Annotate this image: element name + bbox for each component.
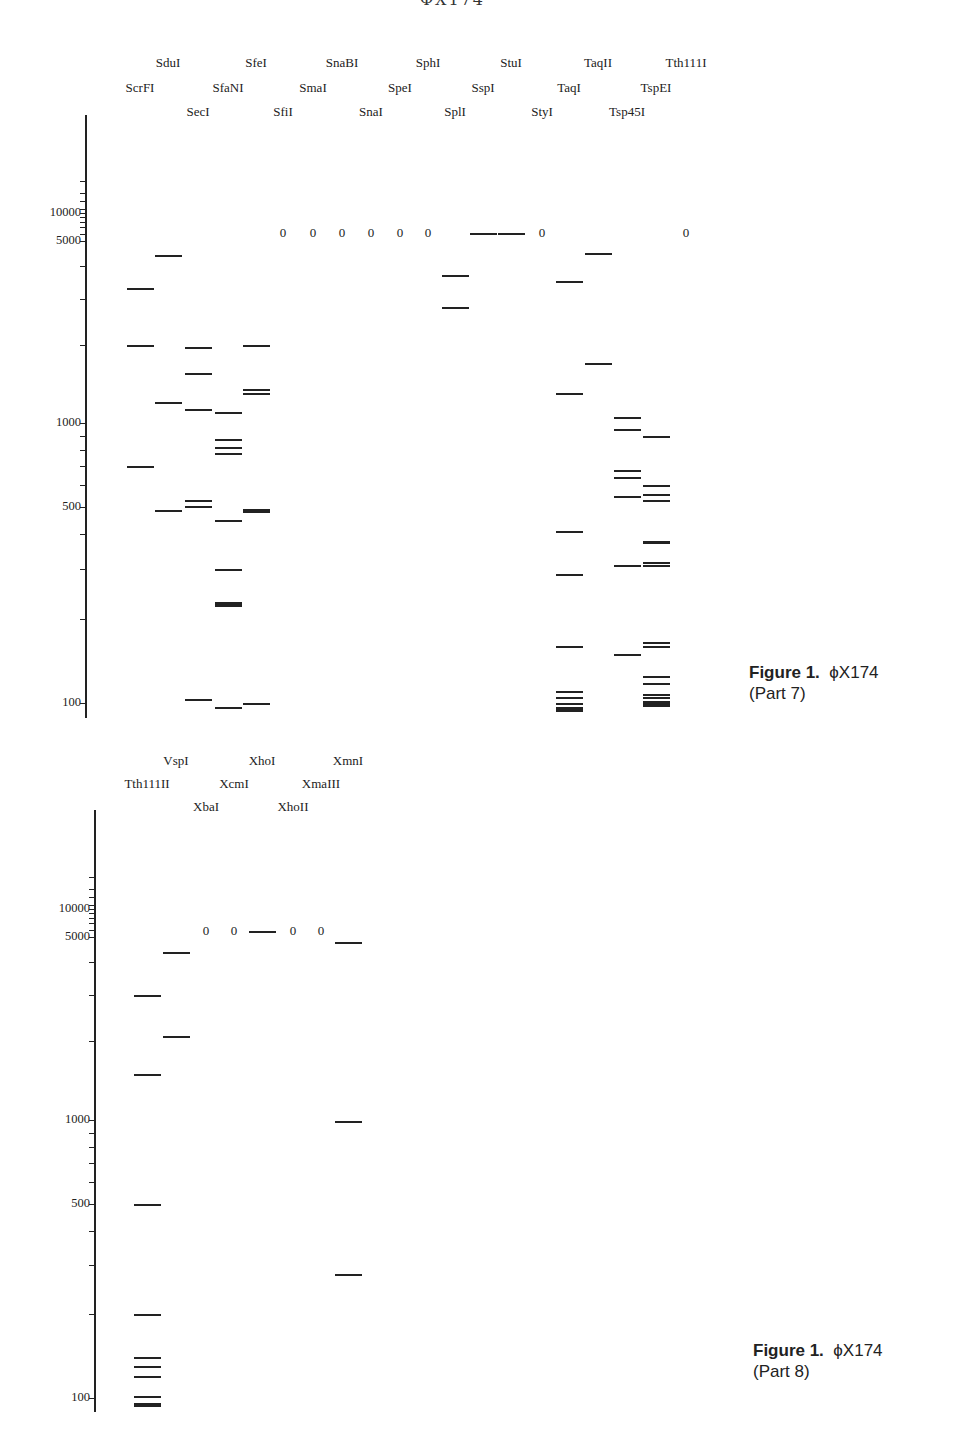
y-tick <box>89 995 94 996</box>
enzyme-label: XhoI <box>249 753 276 769</box>
y-tick <box>89 1147 94 1148</box>
zero-fragments-marker: 0 <box>290 923 297 939</box>
y-tick <box>89 1231 94 1232</box>
y-tick <box>89 889 94 890</box>
caption-organism: ϕX174 <box>829 663 878 682</box>
y-tick <box>89 1265 94 1266</box>
fragment-band <box>134 1396 161 1398</box>
figure-caption-part-8: Figure 1. ϕX174 (Part 8) <box>753 1340 883 1382</box>
y-tick <box>89 877 94 878</box>
y-tick <box>89 897 94 898</box>
y-tick <box>89 1133 94 1134</box>
enzyme-label: XmaIII <box>302 776 340 792</box>
caption-figure-label: Figure 1. <box>753 1341 824 1360</box>
zero-fragments-marker: 0 <box>231 923 238 939</box>
y-tick <box>89 1163 94 1164</box>
fragment-band <box>134 1404 161 1407</box>
y-tick-label: 1000 <box>30 1112 90 1127</box>
y-tick <box>89 923 94 924</box>
fragment-band <box>134 1376 161 1378</box>
digest-panel-part-8: 1005001000500010000Tth111IIVspIXbaI0XcmI… <box>0 0 969 1435</box>
enzyme-label: VspI <box>163 753 188 769</box>
y-tick <box>89 962 94 963</box>
zero-fragments-marker: 0 <box>203 923 210 939</box>
y-tick-label: 500 <box>30 1196 90 1211</box>
enzyme-label: Tth111II <box>124 776 169 792</box>
enzyme-label: XhoII <box>277 799 308 815</box>
fragment-band <box>163 952 190 954</box>
fragment-band <box>134 1366 161 1368</box>
enzyme-label: XbaI <box>193 799 219 815</box>
enzyme-label: XcmI <box>219 776 249 792</box>
y-tick <box>89 918 94 919</box>
y-tick-label: 5000 <box>30 929 90 944</box>
fragment-band <box>134 1074 161 1076</box>
fragment-band <box>134 1314 161 1316</box>
fragment-band <box>163 1036 190 1038</box>
fragment-band <box>335 1121 362 1123</box>
caption-organism: ϕX174 <box>833 1341 882 1360</box>
fragment-band <box>335 942 362 944</box>
y-tick <box>89 1182 94 1183</box>
figure-caption-part-7: Figure 1. ϕX174 (Part 7) <box>749 662 879 704</box>
zero-fragments-marker: 0 <box>318 923 325 939</box>
fragment-band <box>249 931 276 933</box>
caption-part: (Part 8) <box>753 1362 810 1381</box>
y-tick <box>89 1314 94 1315</box>
y-tick-label: 10000 <box>30 901 90 916</box>
y-axis <box>94 810 96 1412</box>
fragment-band <box>134 1357 161 1359</box>
y-tick-label: 100 <box>30 1390 90 1405</box>
fragment-band <box>335 1274 362 1276</box>
enzyme-label: XmnI <box>333 753 363 769</box>
caption-part: (Part 7) <box>749 684 806 703</box>
caption-figure-label: Figure 1. <box>749 663 820 682</box>
fragment-band <box>134 1204 161 1206</box>
fragment-band <box>134 995 161 997</box>
y-tick <box>89 1041 94 1042</box>
